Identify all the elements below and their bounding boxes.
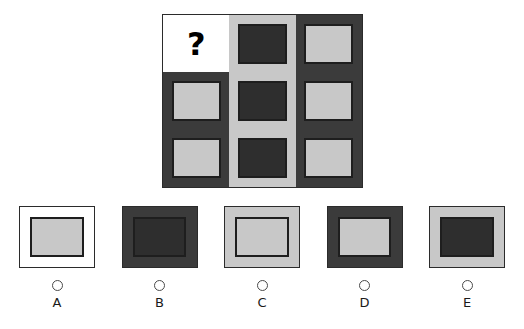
answer-option-d[interactable]: D [324, 206, 406, 309]
option-inner-rect [338, 217, 391, 258]
option-letter-label: D [359, 296, 369, 309]
matrix-puzzle-grid: ? [162, 14, 363, 188]
answer-option-a[interactable]: A [16, 206, 98, 309]
matrix-cell-inner-rect [172, 138, 221, 178]
answer-option-c[interactable]: C [221, 206, 303, 309]
question-mark-symbol: ? [187, 28, 206, 60]
option-letter-label: E [463, 296, 471, 309]
matrix-cell-inner-rect [304, 81, 353, 121]
matrix-cell-inner-rect [172, 81, 221, 121]
matrix-cell [229, 130, 295, 187]
option-radio-button[interactable] [359, 280, 370, 291]
matrix-cell-inner-rect [238, 81, 287, 121]
option-letter-label: B [155, 296, 164, 309]
matrix-cell [296, 15, 362, 72]
option-inner-rect [30, 217, 83, 258]
matrix-cell [296, 72, 362, 129]
option-letter-label: C [257, 296, 266, 309]
matrix-cell-inner-rect [238, 138, 287, 178]
matrix-cell-missing: ? [163, 15, 229, 72]
option-figure[interactable] [429, 206, 505, 268]
option-radio-button[interactable] [154, 280, 165, 291]
option-inner-rect [440, 217, 493, 258]
answer-option-b[interactable]: B [119, 206, 201, 309]
option-radio-button[interactable] [257, 280, 268, 291]
option-inner-rect [133, 217, 186, 258]
option-figure[interactable] [122, 206, 198, 268]
matrix-cell [163, 130, 229, 187]
option-figure[interactable] [224, 206, 300, 268]
matrix-cell-inner-rect [238, 24, 287, 64]
answer-option-e[interactable]: E [426, 206, 508, 309]
answer-options-row: ABCDE [16, 206, 508, 318]
option-radio-button[interactable] [462, 280, 473, 291]
matrix-cell [229, 72, 295, 129]
option-inner-rect [235, 217, 288, 258]
option-letter-label: A [53, 296, 62, 309]
matrix-cell [163, 72, 229, 129]
option-radio-button[interactable] [52, 280, 63, 291]
matrix-cell-inner-rect [304, 24, 353, 64]
matrix-cell-inner-rect [304, 138, 353, 178]
option-figure[interactable] [327, 206, 403, 268]
matrix-cell [229, 15, 295, 72]
matrix-cell [296, 130, 362, 187]
option-figure[interactable] [19, 206, 95, 268]
